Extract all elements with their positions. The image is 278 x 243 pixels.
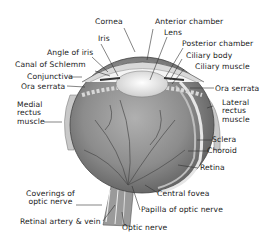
label-central-fovea: Central fovea — [157, 190, 210, 198]
label-medial-rectus-muscle: Medial rectus muscle — [17, 101, 45, 126]
label-retina: Retina — [200, 164, 225, 172]
label-lateral-rectus-muscle: Lateral rectus muscle — [222, 99, 250, 124]
label-lens: Lens — [164, 29, 182, 37]
label-papilla-of-optic-nerve: Papilla of optic nerve — [141, 206, 223, 214]
label-coverings-of-optic-nerve: Coverings of optic nerve — [26, 190, 75, 207]
label-angle-of-iris: Angle of iris — [47, 49, 93, 57]
label-ciliary-muscle: Ciliary muscle — [195, 63, 250, 71]
label-ora-serrata-right: Ora serrata — [215, 85, 259, 93]
label-canal-of-schlemm: Canal of Schlemm — [15, 61, 86, 69]
label-retinal-artery-and-vein: Retinal artery & vein — [20, 218, 101, 226]
label-iris: Iris — [98, 35, 110, 43]
eye-diagram: Cornea Anterior chamber Iris Lens Angle … — [0, 0, 278, 243]
label-sclera: Sclera — [212, 136, 236, 144]
label-optic-nerve: Optic nerve — [122, 224, 167, 232]
label-ora-serrata-left: Ora serrata — [21, 83, 65, 91]
label-posterior-chamber: Posterior chamber — [182, 40, 253, 48]
label-ciliary-body: Ciliary body — [186, 52, 232, 60]
label-cornea: Cornea — [95, 18, 123, 26]
label-line: optic nerve — [26, 198, 75, 206]
label-anterior-chamber: Anterior chamber — [155, 18, 223, 26]
label-choroid: Choroid — [207, 147, 237, 155]
label-line: muscle — [222, 116, 250, 124]
label-line: muscle — [17, 118, 45, 126]
label-conjunctiva: Conjunctiva — [27, 73, 73, 81]
